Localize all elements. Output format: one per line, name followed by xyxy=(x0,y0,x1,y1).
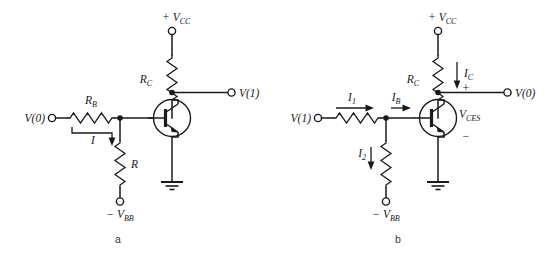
label-current-i1-b: I1 xyxy=(347,91,356,106)
resistor-series-b xyxy=(333,113,381,123)
resistor-pulldown-b xyxy=(381,140,391,188)
terminal-output-a[interactable] xyxy=(228,89,235,96)
terminal-vcc-a[interactable] xyxy=(168,27,175,34)
label-input-v0-a: V(0) xyxy=(25,112,46,125)
label-current-i-a: I xyxy=(90,134,96,146)
current-arrow-i1-b xyxy=(336,105,374,112)
label-vcc-a: + VCC xyxy=(162,11,191,26)
label-rc-b: RC xyxy=(406,73,420,88)
panel-b: + VCC RC IC V(0) xyxy=(291,11,536,245)
ground-symbol-b xyxy=(427,182,449,190)
terminal-output-b[interactable] xyxy=(504,89,511,96)
label-rc-a: RC xyxy=(139,73,153,88)
terminal-input-b[interactable] xyxy=(314,114,321,121)
terminal-vbb-b[interactable] xyxy=(382,198,389,205)
label-vces-minus-b: − xyxy=(463,129,470,143)
label-vcc-b: + VCC xyxy=(428,11,457,26)
resistor-rb-a xyxy=(67,113,115,123)
label-output-v0-b: V(0) xyxy=(515,87,536,100)
resistor-rc-a xyxy=(167,55,177,103)
transistor-b xyxy=(414,100,457,138)
label-output-v1-a: V(1) xyxy=(239,87,260,100)
caption-a: a xyxy=(115,233,121,245)
transistor-a xyxy=(148,100,191,138)
resistor-r-a xyxy=(115,140,125,188)
terminal-vbb-a[interactable] xyxy=(116,198,123,205)
label-vbb-a: − VBB xyxy=(106,208,134,223)
label-vces-b: VCES xyxy=(459,108,480,123)
terminal-input-a[interactable] xyxy=(48,114,55,121)
label-rb-a: RB xyxy=(84,94,97,109)
current-arrow-i2-b xyxy=(368,147,375,170)
label-vbb-b: − VBB xyxy=(372,208,400,223)
current-arrow-ib-b xyxy=(391,105,411,112)
circuit-diagram: + VCC RC V(1) xyxy=(0,0,548,259)
terminal-vcc-b[interactable] xyxy=(434,27,441,34)
resistor-rc-b xyxy=(433,55,443,103)
label-current-ic-b: IC xyxy=(463,67,474,82)
panel-a: + VCC RC V(1) xyxy=(25,11,260,245)
current-arrow-ic-b xyxy=(454,62,461,89)
label-current-i2-b: I2 xyxy=(357,147,366,162)
caption-b: b xyxy=(395,233,401,245)
label-input-v1-b: V(1) xyxy=(291,112,312,125)
label-r-a: R xyxy=(130,158,138,170)
label-vces-plus-b: + xyxy=(463,81,470,95)
label-current-ib-b: IB xyxy=(391,91,401,106)
ground-symbol-a xyxy=(161,182,183,190)
figure-container: + VCC RC V(1) xyxy=(0,0,548,259)
